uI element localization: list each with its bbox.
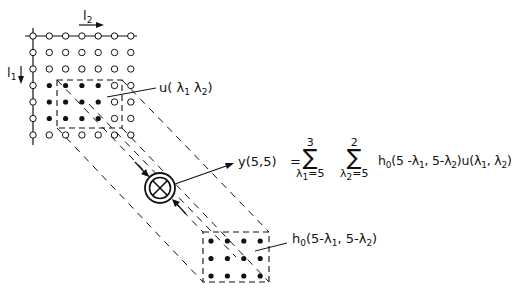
kernel-coefficient-dot — [208, 256, 213, 261]
sigma-icon: ∑ — [303, 148, 318, 168]
sample-point — [30, 49, 36, 55]
filled-sample-dot — [47, 99, 52, 104]
sample-point — [95, 49, 101, 55]
kernel-coefficient-dot — [258, 256, 263, 261]
filled-sample-dot — [47, 116, 52, 121]
kernel-label: h0(5-λ1, 5-λ2) — [292, 232, 377, 248]
sample-point — [95, 132, 101, 138]
sample-point — [62, 33, 68, 39]
sample-point — [128, 82, 134, 88]
sample-point — [79, 132, 85, 138]
sum-lambda1: 3 ∑ λ1=5 — [296, 137, 324, 182]
kernel-coefficient-dot — [241, 273, 246, 278]
output-arrow — [175, 165, 229, 184]
sample-point — [30, 33, 36, 39]
sample-point — [46, 66, 52, 72]
filled-sample-dot — [47, 83, 52, 88]
filled-sample-dot — [63, 83, 68, 88]
equation-summand: h0(5 -λ1, 5-λ2)u(λ1, λ2) — [378, 155, 512, 170]
sigma-icon: ∑ — [347, 148, 362, 168]
sample-point — [30, 82, 36, 88]
kernel-coefficient-dot — [208, 273, 213, 278]
input-label: u( λ1 λ2) — [159, 81, 213, 97]
kernel-grid — [208, 238, 262, 278]
filled-sample-dot — [96, 83, 101, 88]
l2-arrowhead-icon — [96, 22, 104, 28]
l2-axis-label: l2 — [83, 9, 92, 25]
sample-point — [46, 33, 52, 39]
kernel-coefficient-dot — [225, 273, 230, 278]
filled-sample-dot — [96, 99, 101, 104]
filled-sample-dot — [79, 99, 84, 104]
kernel-coefficient-dot — [258, 238, 263, 243]
sample-point — [128, 49, 134, 55]
kernel-coefficient-dot — [208, 238, 213, 243]
kernel-coefficient-dot — [241, 256, 246, 261]
sample-point — [128, 115, 134, 121]
kernel-label-leader — [255, 243, 287, 251]
sample-point — [111, 66, 117, 72]
l1-axis-label: l1 — [7, 66, 16, 82]
output-arrowhead-icon — [225, 163, 234, 169]
sample-point — [128, 66, 134, 72]
sample-point — [79, 33, 85, 39]
kernel-coefficient-dot — [258, 273, 263, 278]
sample-point — [62, 66, 68, 72]
kernel-coefficient-dot — [241, 238, 246, 243]
sample-point — [111, 33, 117, 39]
sample-point — [95, 33, 101, 39]
sample-point — [95, 66, 101, 72]
multiply-sum-operator-icon — [145, 173, 175, 203]
sample-point — [46, 132, 52, 138]
equation-lhs: y(5,5) — [238, 155, 277, 168]
sample-point — [30, 99, 36, 105]
filled-sample-dot — [63, 116, 68, 121]
input-grid — [30, 33, 134, 138]
l1-arrowhead-icon — [18, 76, 24, 84]
sample-point — [111, 99, 117, 105]
sample-point — [128, 33, 134, 39]
sum-lambda2: 2 ∑ λ2=5 — [340, 137, 368, 182]
sample-point — [30, 132, 36, 138]
filled-sample-dot — [79, 83, 84, 88]
kernel-coefficient-dot — [225, 256, 230, 261]
sample-point — [79, 49, 85, 55]
sample-point — [128, 132, 134, 138]
sample-point — [128, 99, 134, 105]
sample-point — [79, 66, 85, 72]
sample-point — [30, 66, 36, 72]
kernel-coefficient-dot — [225, 238, 230, 243]
filled-sample-dot — [79, 116, 84, 121]
sample-point — [111, 49, 117, 55]
sample-point — [46, 49, 52, 55]
sample-point — [62, 49, 68, 55]
filled-sample-dot — [63, 99, 68, 104]
sample-point — [62, 132, 68, 138]
sample-point — [111, 82, 117, 88]
sample-point — [30, 115, 36, 121]
sample-point — [111, 115, 117, 121]
